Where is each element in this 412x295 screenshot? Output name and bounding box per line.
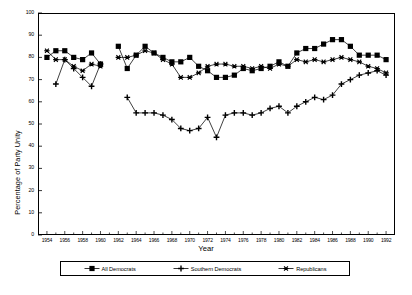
data-series [44,37,389,140]
chart-root: 0102030405060708090100 19541956195819601… [0,0,412,295]
star-icon [278,265,294,272]
legend-item-republicans: Republicans [278,265,326,272]
legend-label: Republicans [296,266,326,272]
y-tick-label: 80 [10,54,34,59]
y-axis-title-wrap: Percentage of Party Unity [4,60,16,180]
filled-square-icon [84,265,100,272]
y-tick-label: 100 [10,10,34,15]
x-tick-label: 1992 [373,238,399,243]
chart-legend: All DemocratsSouthern DemocratsRepublica… [60,261,350,276]
legend-item-all-democrats: All Democrats [84,265,136,272]
series-southern-democrats [53,57,389,141]
axis-ticks [38,13,386,235]
legend-label: Southern Democrats [191,266,241,272]
legend-item-southern-democrats: Southern Democrats [173,265,241,272]
y-tick-label: 90 [10,32,34,37]
plus-icon [173,265,189,272]
y-axis-title: Percentage of Party Unity [13,113,22,233]
x-axis-title: Year [0,244,412,253]
legend-label: All Democrats [102,266,136,272]
y-tick-label: 0 [10,232,34,237]
